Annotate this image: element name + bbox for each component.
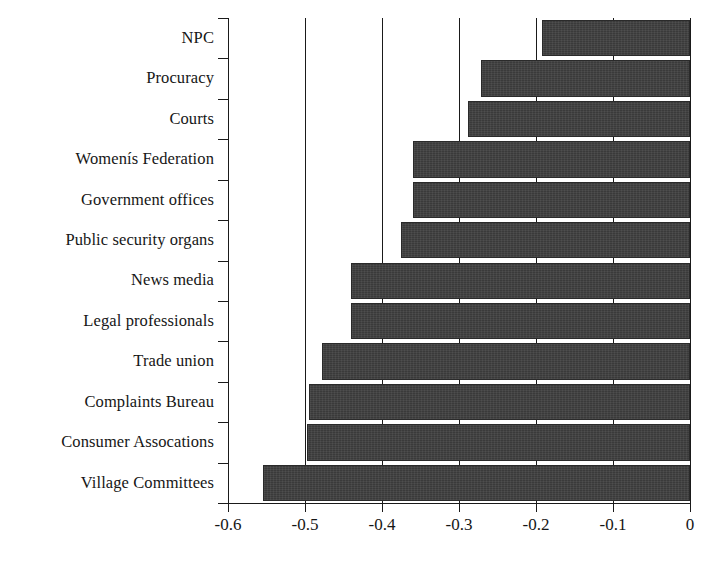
category-label: Legal professionals (0, 301, 222, 341)
x-axis-ticks (228, 503, 691, 513)
category-label: Village Committees (0, 463, 222, 503)
bar-row (228, 220, 690, 260)
y-axis-tick (218, 341, 228, 342)
bar[interactable] (413, 141, 690, 177)
x-axis-tick-label: -0.6 (215, 516, 242, 533)
bar[interactable] (351, 263, 690, 299)
bar[interactable] (401, 222, 690, 258)
category-label: Womenís Federation (0, 139, 222, 179)
y-axis-tick (218, 139, 228, 140)
x-axis-tick-label: -0.2 (523, 516, 550, 533)
x-axis-tick-labels: -0.6-0.5-0.4-0.3-0.2-0.10 (0, 516, 717, 550)
category-label: Complaints Bureau (0, 382, 222, 422)
y-axis-tick (218, 180, 228, 181)
bar[interactable] (351, 303, 690, 339)
x-axis-tick (382, 503, 383, 512)
bar-row (228, 422, 690, 462)
category-label: News media (0, 261, 222, 301)
y-axis-tick (218, 18, 228, 19)
bar-row (228, 463, 690, 503)
x-axis-tick (459, 503, 460, 512)
x-axis-tick (613, 503, 614, 512)
y-axis-tick (218, 261, 228, 262)
bar[interactable] (322, 343, 690, 379)
x-axis-tick-label: -0.5 (292, 516, 319, 533)
y-axis-tick (218, 58, 228, 59)
y-axis-tick (218, 503, 228, 504)
x-axis-tick (228, 503, 229, 512)
y-axis-tick (218, 422, 228, 423)
category-label: Consumer Assocations (0, 422, 222, 462)
x-axis-tick (305, 503, 306, 512)
bar-row (228, 18, 690, 58)
bar[interactable] (309, 384, 690, 420)
bar-row (228, 180, 690, 220)
bar[interactable] (468, 101, 690, 137)
y-axis-tick (218, 220, 228, 221)
category-label: Government offices (0, 180, 222, 220)
y-axis-tick (218, 301, 228, 302)
x-axis-tick-label: -0.1 (600, 516, 627, 533)
bar-row (228, 341, 690, 381)
bar-row (228, 58, 690, 98)
x-axis-tick-label: 0 (686, 516, 695, 533)
bar[interactable] (413, 182, 690, 218)
y-axis-tick (218, 463, 228, 464)
x-axis-tick-label: -0.4 (369, 516, 396, 533)
bar-row (228, 261, 690, 301)
category-label: Trade union (0, 341, 222, 381)
category-label: Procuracy (0, 58, 222, 98)
bar[interactable] (307, 424, 690, 460)
bar-chart: NPC Procuracy Courts Womenís Federation … (0, 0, 717, 566)
x-axis-tick-label: -0.3 (446, 516, 473, 533)
category-label: Public security organs (0, 220, 222, 260)
category-label: Courts (0, 99, 222, 139)
x-axis-tick (536, 503, 537, 512)
bars-layer (228, 18, 690, 503)
category-label: NPC (0, 18, 222, 58)
category-axis: NPC Procuracy Courts Womenís Federation … (0, 18, 222, 503)
x-axis-tick (690, 503, 691, 512)
y-axis-tick (218, 382, 228, 383)
y-axis-tick (218, 99, 228, 100)
bar-row (228, 382, 690, 422)
bar[interactable] (542, 20, 690, 56)
bar[interactable] (481, 60, 690, 96)
y-axis-line (228, 18, 229, 504)
bar-row (228, 139, 690, 179)
bar-row (228, 99, 690, 139)
bar-row (228, 301, 690, 341)
bar[interactable] (263, 465, 690, 501)
plot-area (228, 18, 690, 503)
y-axis-ticks (218, 18, 228, 504)
